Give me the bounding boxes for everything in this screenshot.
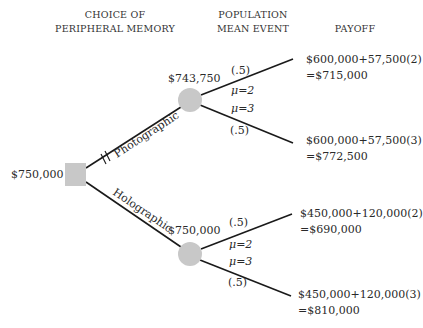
event-holo-2: μ=3 — [229, 255, 252, 269]
header-choice: CHOICE OF PERIPHERAL MEMORY — [40, 8, 190, 36]
payoff-photo-2-formula: $600,000+57,500(3) — [306, 134, 422, 148]
header-event-line1: POPULATION — [212, 8, 294, 22]
prob-holo-2: (.5) — [228, 276, 247, 290]
header-choice-line2: PERIPHERAL MEMORY — [40, 22, 190, 36]
prob-photo-1: (.5) — [231, 64, 250, 78]
payoff-photo-1-result: =$715,000 — [306, 69, 368, 83]
payoff-photo-1-formula: $600,000+57,500(2) — [306, 53, 422, 67]
chance-value-photographic: $743,750 — [168, 72, 221, 86]
event-photo-2: μ=3 — [231, 102, 254, 116]
payoff-holo-2-result: =$810,000 — [298, 304, 360, 318]
header-payoff: PAYOFF — [325, 22, 385, 36]
decision-node — [65, 163, 86, 186]
branch-label-photographic: Photographic — [112, 109, 182, 161]
payoff-holo-1-result: =$690,000 — [300, 223, 362, 237]
branch-label-holographic: Holographic — [110, 186, 174, 235]
event-holo-1: μ=2 — [229, 238, 252, 252]
header-event: POPULATION MEAN EVENT — [212, 8, 294, 36]
event-photo-1: μ=2 — [231, 84, 254, 98]
payoff-photo-2-result: =$772,500 — [306, 150, 368, 164]
prob-holo-1: (.5) — [229, 216, 248, 230]
chance-value-holographic: $750,000 — [168, 224, 221, 238]
payoff-holo-1-formula: $450,000+120,000(2) — [300, 207, 423, 221]
root-value: $750,000 — [11, 168, 64, 182]
chance-node-holographic — [178, 242, 202, 266]
payoff-holo-2-formula: $450,000+120,000(3) — [298, 288, 421, 302]
chance-node-photographic — [178, 88, 202, 112]
header-event-line2: MEAN EVENT — [212, 22, 294, 36]
header-choice-line1: CHOICE OF — [40, 8, 190, 22]
prob-photo-2: (.5) — [230, 124, 249, 138]
